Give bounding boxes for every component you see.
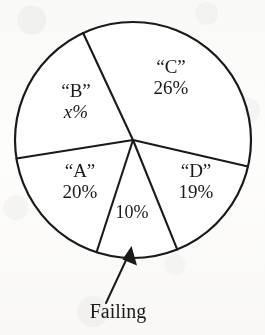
pie-chart-figure: “C” 26% “B” x% “A” 20% “D” 19% 10% Faili…: [0, 0, 265, 335]
slice-label-d-value: 19%: [158, 181, 234, 202]
failing-arrow-line: [106, 257, 128, 303]
slice-label-c-name: “C”: [133, 56, 209, 77]
slice-label-a-value: 20%: [42, 181, 118, 202]
slice-label-b: “B” x%: [38, 80, 114, 123]
failing-annotation-label: Failing: [48, 300, 188, 323]
slice-label-c: “C” 26%: [133, 56, 209, 99]
slice-label-failing: 10%: [101, 202, 163, 222]
slice-label-b-value: x%: [38, 101, 114, 122]
slice-label-d-name: “D”: [158, 160, 234, 181]
slice-label-a: “A” 20%: [42, 160, 118, 203]
slice-label-d: “D” 19%: [158, 160, 234, 203]
slice-label-a-name: “A”: [42, 160, 118, 181]
slice-label-failing-value: 10%: [101, 202, 163, 222]
slice-label-c-value: 26%: [133, 77, 209, 98]
slice-label-b-name: “B”: [38, 80, 114, 101]
